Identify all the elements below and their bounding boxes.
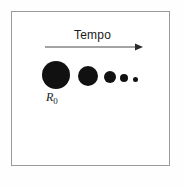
time-axis-label: Tempo (1, 28, 183, 42)
figure-root: Tempo R0 (0, 0, 183, 187)
time-arrow-icon (44, 41, 144, 53)
initial-radius-subscript: 0 (53, 96, 58, 106)
initial-radius-label: R0 (46, 90, 58, 108)
